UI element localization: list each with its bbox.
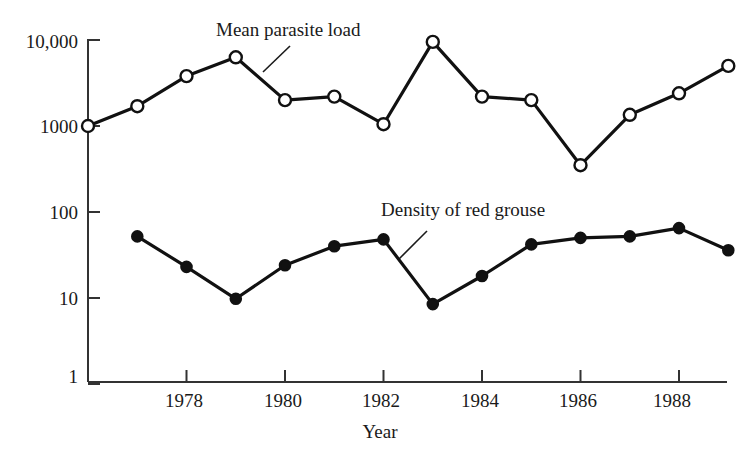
data-point	[427, 36, 439, 48]
data-point	[230, 51, 242, 63]
data-point	[575, 233, 585, 243]
axis-lines	[88, 39, 727, 382]
series-line	[137, 228, 728, 304]
data-point	[477, 271, 487, 281]
data-point	[279, 94, 291, 106]
data-point	[625, 231, 635, 241]
data-series-layer	[82, 36, 734, 309]
data-point	[428, 299, 438, 309]
annotation-leader-lines	[263, 46, 427, 259]
data-point	[526, 239, 536, 249]
series-line	[88, 42, 728, 165]
data-point	[231, 294, 241, 304]
data-point	[328, 91, 340, 103]
data-point	[132, 231, 142, 241]
chart-figure: 10,000 1000 100 10 1 1978 1980 1982 1984…	[0, 0, 754, 458]
leader-line-parasite	[263, 46, 290, 72]
data-point	[280, 260, 290, 270]
data-point	[722, 60, 734, 72]
data-point	[575, 159, 587, 171]
series-density-of-red-grouse	[132, 223, 733, 309]
data-point	[525, 94, 537, 106]
y-axis-ticks	[88, 40, 100, 384]
data-point	[674, 223, 684, 233]
data-point	[131, 100, 143, 112]
data-point	[476, 91, 488, 103]
data-point	[624, 109, 636, 121]
data-point	[673, 87, 685, 99]
leader-line-grouse	[399, 231, 427, 259]
data-point	[181, 70, 193, 82]
data-point	[82, 120, 94, 132]
data-point	[378, 234, 388, 244]
plot-area	[0, 0, 754, 458]
data-point	[329, 241, 339, 251]
data-point	[181, 262, 191, 272]
series-mean-parasite-load	[82, 36, 734, 171]
data-point	[378, 118, 390, 130]
data-point	[723, 245, 733, 255]
x-axis-ticks	[187, 370, 680, 382]
